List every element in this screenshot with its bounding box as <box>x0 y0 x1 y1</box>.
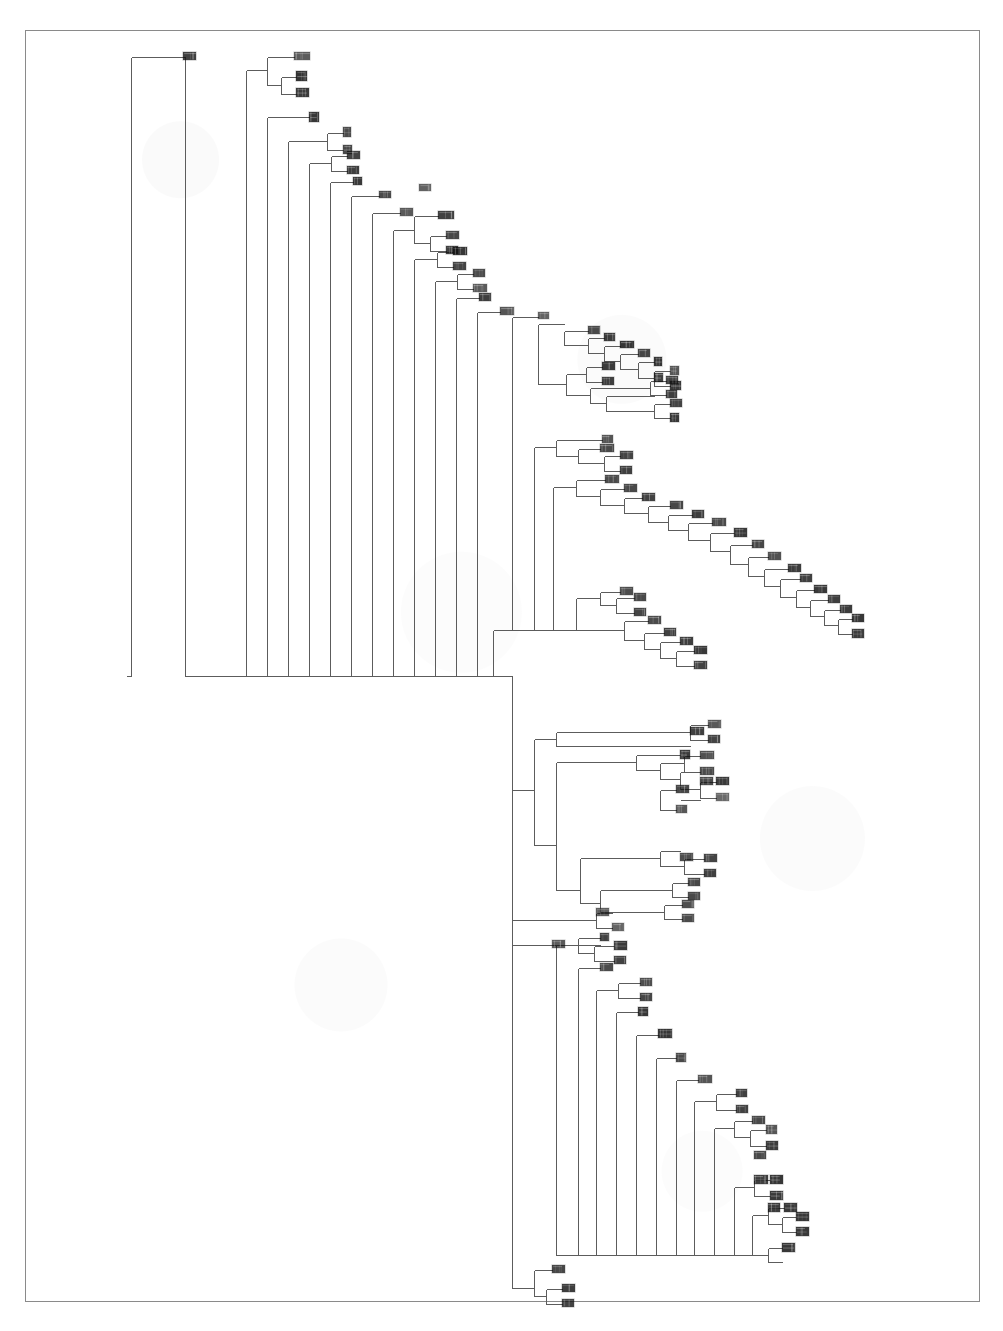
label-blob-nick <box>692 901 693 908</box>
taxon-label <box>799 573 812 582</box>
label-blob-nick <box>794 1204 795 1212</box>
label-blob-nick <box>344 128 345 137</box>
label-blob-nick <box>564 1300 565 1307</box>
label-blob-nick <box>305 89 306 97</box>
label-blob-nick <box>603 964 604 971</box>
taxon-label-group <box>182 51 864 1307</box>
label-blob-nick <box>657 374 658 382</box>
label-blob-nick <box>644 609 645 616</box>
label-blob-nick <box>678 400 679 407</box>
label-blob-nick <box>353 152 354 159</box>
label-blob-striation <box>771 1176 780 1177</box>
label-blob-nick <box>737 1106 738 1113</box>
label-blob-nick <box>806 1213 807 1221</box>
label-blob-nick <box>678 1054 679 1062</box>
label-blob-nick <box>742 1090 743 1097</box>
label-blob-nick <box>755 541 756 548</box>
label-blob-nick <box>356 167 357 174</box>
taxon-label <box>751 1115 765 1124</box>
label-blob-nick <box>649 979 650 986</box>
label-blob-nick <box>692 915 693 922</box>
label-blob-nick <box>693 901 694 908</box>
label-blob-nick <box>771 1204 772 1212</box>
label-blob-nick <box>465 248 466 255</box>
label-blob-nick <box>774 1142 775 1150</box>
label-blob-striation <box>605 476 616 477</box>
label-blob-striation <box>693 511 701 512</box>
label-blob-nick <box>745 1106 746 1113</box>
label-blob-nick <box>709 752 710 759</box>
label-blob-nick <box>453 232 454 239</box>
label-blob-striation <box>734 533 746 534</box>
label-blob-nick <box>794 1244 795 1252</box>
label-blob-nick <box>511 308 512 315</box>
label-blob-nick <box>642 1008 643 1016</box>
taxon-label <box>437 210 454 219</box>
label-blob-nick <box>302 53 303 60</box>
taxon-label <box>399 207 413 216</box>
label-blob-striation <box>796 1228 804 1229</box>
label-blob-nick <box>855 615 856 622</box>
label-blob-striation <box>655 362 661 363</box>
label-blob-nick <box>608 436 609 443</box>
label-blob-striation <box>659 1030 672 1031</box>
label-blob-nick <box>656 358 657 366</box>
label-blob-nick <box>513 308 514 315</box>
label-blob-nick <box>645 994 646 1001</box>
label-blob-nick <box>190 53 191 60</box>
label-blob-nick <box>479 270 480 277</box>
label-blob-striation <box>649 617 659 618</box>
label-blob-nick <box>623 924 624 931</box>
label-blob-nick <box>853 630 854 638</box>
label-blob-nick <box>653 617 654 624</box>
label-blob-nick <box>559 1266 560 1273</box>
label-blob-nick <box>555 1266 556 1273</box>
label-blob-nick <box>428 185 429 191</box>
label-blob-nick <box>776 1192 777 1200</box>
label-blob-nick <box>606 436 607 443</box>
label-blob-nick <box>705 662 706 669</box>
label-blob-striation <box>755 1180 766 1181</box>
label-blob-nick <box>666 1030 667 1038</box>
label-blob-nick <box>604 378 605 385</box>
label-blob-nick <box>592 327 593 334</box>
label-blob-nick <box>672 414 673 422</box>
taxon-label <box>293 51 310 60</box>
label-blob-nick <box>675 367 676 375</box>
taxon-label <box>295 70 307 81</box>
label-blob-striation <box>665 629 675 630</box>
label-blob-nick <box>609 378 610 385</box>
label-blob-nick <box>629 485 630 492</box>
label-blob-nick <box>796 565 797 572</box>
label-blob-nick <box>387 192 388 198</box>
taxon-label <box>733 527 747 537</box>
label-blob-nick <box>801 1228 802 1236</box>
label-blob-nick <box>772 1126 773 1134</box>
label-blob-nick <box>798 1213 799 1221</box>
label-blob-nick <box>769 1142 770 1150</box>
taxon-label <box>295 87 309 97</box>
label-blob-nick <box>841 606 842 613</box>
label-blob-nick <box>854 615 855 622</box>
label-blob-striation <box>480 294 490 295</box>
label-blob-nick <box>456 263 457 270</box>
label-blob-nick <box>623 588 624 595</box>
taxon-label <box>472 283 487 292</box>
label-blob-nick <box>658 617 659 624</box>
taxon-label <box>669 365 679 375</box>
taxon-label <box>699 766 714 775</box>
label-blob-nick <box>699 728 700 735</box>
label-blob-striation <box>700 778 712 779</box>
label-blob-nick <box>354 178 355 185</box>
taxon-label <box>699 776 713 785</box>
taxon-label <box>813 584 827 593</box>
label-blob-striation <box>605 334 615 335</box>
label-blob-nick <box>771 553 772 560</box>
label-blob-nick <box>639 350 640 357</box>
label-blob-nick <box>554 941 555 948</box>
label-blob-nick <box>685 1054 686 1062</box>
label-blob-nick <box>772 1176 773 1184</box>
label-blob-nick <box>448 232 449 239</box>
taxon-label <box>851 628 864 638</box>
label-blob-nick <box>698 893 699 900</box>
